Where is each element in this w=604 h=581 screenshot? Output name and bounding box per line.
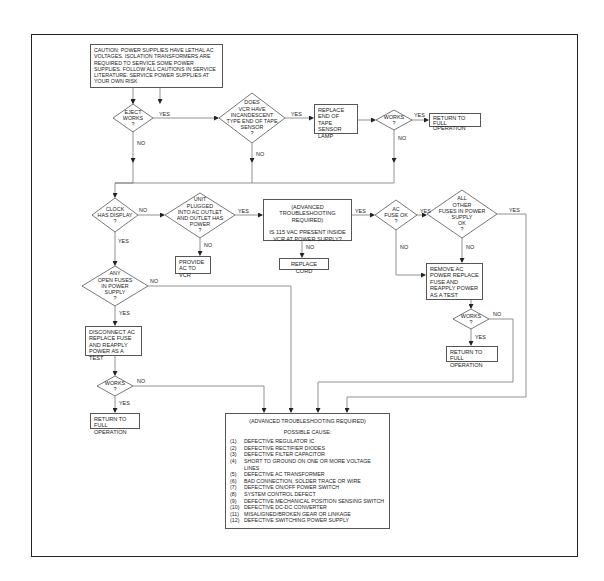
label-yes: YES [475, 334, 486, 340]
label-no: NO [137, 378, 145, 384]
final-heading: (ADVANCED TROUBLESHOOTING REQUIRED) [230, 418, 385, 425]
label-yes: YES [291, 111, 302, 117]
cause-item: (7)DEFECTIVE ON/OFF POWER SWITCH [230, 484, 385, 491]
cause-item: (5)DEFECTIVE AC TRANSFORMER [230, 471, 385, 478]
label-no: NO [150, 278, 158, 284]
label-no: NO [306, 244, 314, 250]
works-3-text: WORKS ? [97, 379, 133, 393]
cause-item: (6)BAD CONNECTION, SOLDER TRACE OR WIRE [230, 478, 385, 485]
clock-display-text: CLOCK HAS DISPLAY ? [92, 205, 138, 225]
label-yes: YES [420, 208, 431, 214]
label-yes: YES [118, 238, 129, 244]
cause-item: (4)SHORT TO GROUND ON ONE OR MORE VOLTAG… [230, 458, 385, 471]
any-open-fuses-text: ANY OPEN FUSES IN POWER SUPPLY ? [82, 270, 148, 302]
disconnect-ac-box: DISCONNECT AC REPLACE FUSE AND REAPPLY P… [85, 326, 142, 356]
works-1-text: WORKS ? [376, 113, 412, 127]
replace-lamp-box: REPLACE END OF TAPE SENSOR LAMP [314, 104, 358, 134]
cause-item: (11)MISALIGNED/BROKEN GEAR OR LINKAGE [230, 511, 385, 518]
cause-item: (9)DEFECTIVE MECHANICAL POSITION SENSING… [230, 498, 385, 505]
return-full-operation-2: RETURN TO FULL OPERATION [446, 346, 498, 362]
advanced-115vac-box: (ADVANCED TROUBLESHOOTING REQUIRED) IS 1… [263, 199, 352, 241]
incandescent-sensor-text: DOES VCR HAVE INCANDESCENT TYPE END OF T… [219, 97, 285, 139]
label-yes: YES [238, 208, 249, 214]
label-yes: YES [119, 400, 130, 406]
label-no: NO [400, 244, 408, 250]
caution-box: CAUTION: POWER SUPPLIES HAVE LETHAL AC V… [90, 44, 223, 88]
cause-item: (8)SYSTEM CONTROL DEFECT [230, 491, 385, 498]
label-yes: YES [355, 208, 366, 214]
works-2-text: WORKS ? [453, 312, 489, 326]
return-full-operation-3: RETURN TO FULL OPERATION [90, 413, 140, 429]
label-yes: YES [509, 207, 520, 213]
return-full-operation-1: RETURN TO FULL OPERATION [429, 113, 481, 127]
unit-plugged-text: UNIT PLUGGED INTO AC OUTLET AND OUTLET H… [165, 196, 235, 234]
cause-item: (3)DEFECTIVE FILTER CAPACITOR [230, 451, 385, 458]
label-no: NO [256, 151, 264, 157]
eject-works-text: EJECT WORKS ? [113, 108, 153, 128]
label-no: NO [493, 311, 501, 317]
cause-item: (1)DEFECTIVE REGULATOR IC [230, 438, 385, 445]
cause-item: (12)DEFECTIVE SWITCHING POWER SUPPLY [230, 517, 385, 524]
possible-causes-box: (ADVANCED TROUBLESHOOTING REQUIRED) POSS… [225, 413, 390, 529]
provide-ac-box: PROVIDE AC TO VCR [175, 256, 211, 274]
label-yes: YES [119, 310, 130, 316]
label-no: NO [398, 135, 406, 141]
label-yes: YES [159, 111, 170, 117]
label-yes: YES [414, 112, 425, 118]
caution-text: CAUTION: POWER SUPPLIES HAVE LETHAL AC V… [94, 47, 216, 84]
ac-fuse-ok-text: AC FUSE OK ? [375, 205, 417, 225]
label-no: NO [139, 207, 147, 213]
label-no: NO [137, 140, 145, 146]
final-subheading: POSSIBLE CAUSE: [230, 429, 385, 436]
cause-list: (1)DEFECTIVE REGULATOR IC (2)DEFECTIVE R… [230, 438, 385, 524]
cause-item: (2)DEFECTIVE RECTIFIER DIODES [230, 445, 385, 452]
remove-ac-power-box: REMOVE AC POWER REPLACE FUSE AND REAPPLY… [426, 263, 483, 300]
label-no: NO [204, 242, 212, 248]
label-no: NO [466, 244, 474, 250]
replace-cord-box: REPLACE CORD [279, 258, 329, 270]
all-other-fuses-text: ALL OTHER FUSES IN POWER SUPPLY OK ? [427, 194, 497, 234]
cause-item: (10)DEFECTIVE DC-DC CONVERTER [230, 504, 385, 511]
